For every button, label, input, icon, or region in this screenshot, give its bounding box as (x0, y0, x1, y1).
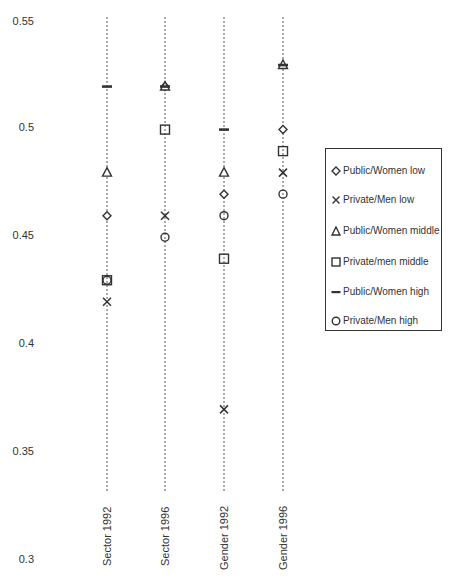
legend-item-3: Private/men middle (331, 256, 429, 267)
dash-marker-icon (160, 85, 170, 88)
diamond-marker-icon (220, 190, 228, 198)
legend-item-0: Public/Women low (331, 165, 425, 176)
circle-icon (331, 316, 341, 326)
x-tick-0: Sector 1992 (101, 507, 113, 566)
y-tick-2: 0.45 (0, 229, 34, 241)
y-tick-0: 0.55 (0, 15, 34, 27)
square-icon (331, 257, 341, 267)
dash-marker-icon (102, 85, 112, 88)
legend-label: Private/Men low (343, 194, 414, 205)
legend-item-5: Private/Men high (331, 315, 418, 326)
x-tick-3: Gender 1996 (277, 506, 289, 570)
legend-label: Private/Men high (343, 315, 418, 326)
diamond-marker-icon (279, 126, 287, 134)
y-tick-5: 0.3 (0, 553, 34, 565)
legend-item-1: Private/Men low (331, 194, 414, 205)
dash-icon (331, 287, 341, 297)
legend-label: Public/Women low (343, 165, 425, 176)
x-tick-1: Sector 1996 (159, 507, 171, 566)
legend: Public/Women low Private/Men low Public/… (325, 148, 442, 331)
y-tick-3: 0.4 (0, 337, 34, 349)
diamond-marker-icon (103, 212, 111, 220)
dash-marker-icon (278, 64, 288, 67)
triangle-marker-icon (103, 168, 112, 177)
triangle-icon (331, 226, 341, 236)
legend-label: Private/men middle (343, 256, 429, 267)
chart-area: 0.55 0.5 0.45 0.4 0.35 0.3 Sector 1992 S… (0, 0, 460, 579)
x-icon (331, 195, 341, 205)
legend-item-4: Public/Women high (331, 286, 429, 297)
legend-label: Public/Women high (343, 286, 429, 297)
diamond-icon (331, 166, 341, 176)
legend-item-2: Public/Women middle (331, 225, 440, 236)
x-tick-2: Gender 1992 (218, 506, 230, 570)
dash-marker-icon (219, 128, 229, 131)
y-tick-4: 0.35 (0, 445, 34, 457)
y-tick-1: 0.5 (0, 121, 34, 133)
legend-label: Public/Women middle (343, 225, 440, 236)
triangle-marker-icon (220, 168, 229, 177)
